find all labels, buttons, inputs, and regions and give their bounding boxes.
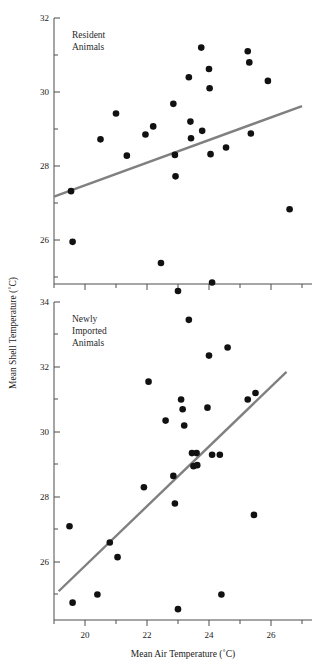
- data-point: [246, 59, 253, 66]
- data-point: [223, 144, 230, 151]
- imported-ytick-30: 30: [40, 427, 50, 437]
- imported-panel-label-line2: Imported: [72, 326, 107, 336]
- data-point: [206, 66, 213, 73]
- imported-panel-label-line3: Animals: [72, 338, 104, 348]
- data-point: [207, 151, 214, 158]
- data-point: [248, 130, 255, 137]
- panel-newly-imported: 34 32 30 28 26 20 22 24 26 Mean Air Temp…: [40, 297, 312, 660]
- data-point: [186, 74, 193, 81]
- data-point: [141, 484, 148, 491]
- data-point: [199, 128, 206, 135]
- imported-x-ticks: [54, 620, 302, 626]
- data-point: [206, 85, 213, 92]
- data-point: [69, 239, 76, 246]
- data-point: [194, 462, 201, 469]
- data-point: [114, 554, 121, 561]
- data-point: [206, 352, 213, 359]
- data-point: [170, 473, 177, 480]
- panel-resident: 32 30 28 26 Resident Animals: [40, 13, 312, 294]
- resident-ytick-30: 30: [40, 87, 50, 97]
- resident-data-points: [68, 44, 293, 294]
- data-point: [251, 512, 258, 519]
- imported-ytick-28: 28: [40, 492, 50, 502]
- data-point: [193, 450, 200, 457]
- resident-fit-line: [54, 106, 302, 197]
- data-point: [224, 344, 231, 351]
- data-point: [175, 606, 182, 613]
- chart-svg: Mean Shell Temperature (˚C) 32 30 28 26: [0, 0, 317, 667]
- data-point: [175, 288, 182, 295]
- resident-ytick-28: 28: [40, 161, 50, 171]
- imported-data-points: [66, 317, 259, 613]
- data-point: [162, 417, 169, 424]
- imported-fit-line: [59, 372, 287, 591]
- imported-ytick-34: 34: [40, 297, 50, 307]
- data-point: [187, 118, 194, 125]
- data-point: [172, 152, 179, 159]
- data-point: [66, 523, 73, 530]
- data-point: [94, 591, 101, 598]
- data-point: [265, 78, 272, 85]
- data-point: [69, 599, 76, 606]
- resident-panel-label-line1: Resident: [72, 30, 106, 40]
- data-point: [107, 539, 114, 546]
- imported-y-ticks: [54, 302, 60, 594]
- xtick-22: 22: [143, 630, 152, 640]
- x-axis-title: Mean Air Temperature (˚C): [131, 649, 235, 660]
- resident-ytick-32: 32: [40, 13, 49, 23]
- data-point: [124, 152, 131, 159]
- data-point: [178, 396, 185, 403]
- data-point: [158, 260, 165, 267]
- data-point: [244, 48, 251, 55]
- y-axis-title: Mean Shell Temperature (˚C): [8, 277, 19, 389]
- data-point: [97, 136, 104, 143]
- data-point: [244, 396, 251, 403]
- data-point: [204, 404, 211, 411]
- data-point: [172, 500, 179, 507]
- imported-ytick-26: 26: [40, 557, 50, 567]
- data-point: [113, 110, 120, 117]
- xtick-26: 26: [267, 630, 277, 640]
- imported-panel-label-line1: Newly: [72, 314, 98, 324]
- data-point: [170, 101, 177, 108]
- data-point: [145, 378, 152, 385]
- data-point: [209, 451, 216, 458]
- data-point: [252, 390, 259, 397]
- data-point: [68, 188, 75, 195]
- scatter-figure: Mean Shell Temperature (˚C) 32 30 28 26: [0, 0, 317, 667]
- data-point: [188, 135, 195, 142]
- data-point: [150, 123, 157, 130]
- resident-ytick-26: 26: [40, 235, 50, 245]
- resident-panel-label-line2: Animals: [72, 42, 104, 52]
- data-point: [181, 422, 188, 429]
- xtick-20: 20: [81, 630, 91, 640]
- data-point: [142, 131, 149, 138]
- data-point: [217, 451, 224, 458]
- data-point: [209, 279, 216, 286]
- resident-y-ticks: [54, 18, 60, 277]
- data-point: [218, 591, 225, 598]
- data-point: [286, 206, 293, 213]
- data-point: [179, 406, 186, 413]
- data-point: [198, 44, 205, 51]
- xtick-24: 24: [205, 630, 215, 640]
- data-point: [186, 317, 193, 324]
- data-point: [172, 173, 179, 180]
- imported-ytick-32: 32: [40, 362, 49, 372]
